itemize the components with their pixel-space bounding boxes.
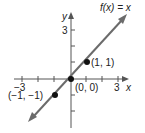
function-label: f(x) = x xyxy=(100,3,131,13)
point-1-1 xyxy=(84,59,90,65)
point-origin xyxy=(68,76,74,82)
graph-canvas xyxy=(0,0,145,133)
point-label-neg1-neg1: (−1, −1) xyxy=(8,91,43,101)
function-line xyxy=(33,20,122,117)
y-tick-label-3: 3 xyxy=(62,26,68,36)
point-label-1-1: (1, 1) xyxy=(91,58,114,68)
x-tick-label-3: 3 xyxy=(114,83,120,93)
point-neg1-neg1 xyxy=(52,92,58,98)
y-axis-arrow-icon xyxy=(68,12,74,19)
point-label-origin: (0, 0) xyxy=(75,83,98,93)
x-axis-label: x xyxy=(126,83,131,93)
y-axis-label: y xyxy=(62,12,67,22)
